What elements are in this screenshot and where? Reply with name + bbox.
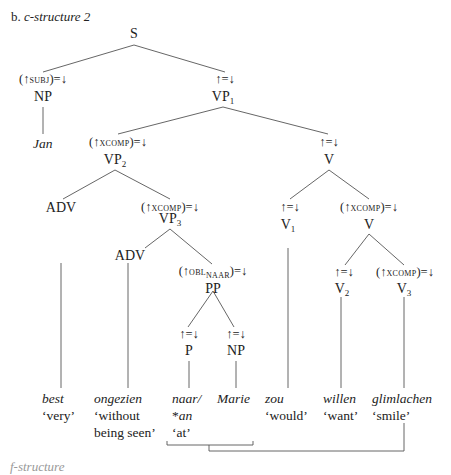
annotation-vp2: (↑xcomp)=↓ [89,135,147,150]
annotation-p: ↑=↓ [179,327,199,342]
node-VP2: VP2 [104,152,126,169]
word-marie: Marie [217,390,250,407]
figure-caption: c-structure 2 [24,9,90,24]
node-PP: PP [205,281,221,297]
word-naar: naar/ *an ‘at’ [172,390,201,441]
node-ADV2: ADV [115,248,145,264]
node-VP1: VP1 [212,89,234,106]
annotation-v1: ↑=↓ [280,200,300,215]
figure-title: b. c-structure 2 [11,9,90,25]
footer-caption: f-structure [10,459,64,475]
node-S: S [130,26,138,42]
node-P: P [185,343,193,359]
annotation-np-obj: ↑=↓ [226,327,246,342]
annotation-v-mid: (↑xcomp)=↓ [340,200,398,215]
word-jan: Jan [33,135,53,152]
node-NP-subj: NP [34,89,52,105]
word-glimlachen: glimlachen ‘smile’ [372,390,432,424]
node-V1: V1 [281,217,296,234]
word-best: best ‘very’ [42,390,75,424]
annotation-subj: (↑subj)=↓ [19,72,67,87]
node-V-top: V [324,152,334,168]
node-V-mid: V [364,217,374,233]
node-V3: V3 [397,281,412,298]
annotation-pp: (↑oblnaar)=↓ [179,264,248,282]
node-V2: V2 [335,281,350,298]
word-ongezien: ongezien ‘without being seen’ [94,390,156,441]
node-VP3: VP3 [159,211,181,228]
word-willen: willen ‘want’ [323,390,358,424]
node-NP-obj: NP [227,343,245,359]
annotation-v-top: ↑=↓ [319,135,339,150]
annotation-vp1: ↑=↓ [215,72,235,87]
figure-label: b. [11,9,21,24]
annotation-v2: ↑=↓ [334,265,354,280]
annotation-v3: (↑xcomp)=↓ [376,265,434,280]
node-ADV1: ADV [46,200,76,216]
word-zou: zou ‘would’ [265,390,308,424]
